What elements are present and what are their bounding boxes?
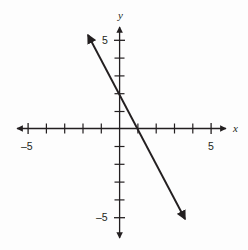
- coordinate-plane-figure: x y –5 5 5 –5: [0, 0, 248, 250]
- y-tick-label-5: 5: [102, 34, 108, 46]
- x-axis-label: x: [232, 122, 238, 134]
- x-axis: [17, 123, 226, 134]
- y-axis-label: y: [117, 9, 123, 21]
- y-axis: [114, 27, 125, 238]
- y-tick-label--5: –5: [96, 211, 108, 223]
- graph-canvas: x y –5 5 5 –5: [0, 0, 248, 250]
- plotted-line-series: [88, 35, 185, 219]
- linear-function-line: [88, 35, 185, 219]
- x-tick-label-5: 5: [208, 140, 214, 152]
- x-tick-label--5: –5: [21, 140, 33, 152]
